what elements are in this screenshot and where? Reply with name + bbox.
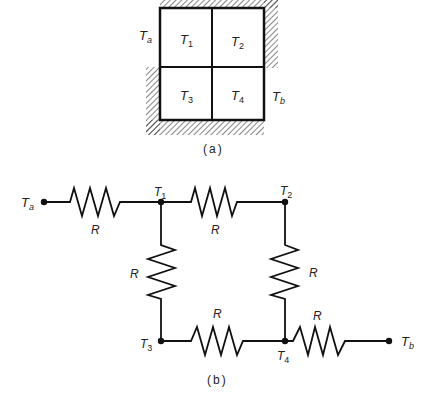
resistor-label-ta-t1: R [91,223,100,237]
thermal-network-figure: T1 T2 T3 T4 Ta Tb (a) Ta T1 T2 T3 T4 Tb [0,0,432,394]
resistor-t1-t2 [161,188,285,216]
figure-a: T1 T2 T3 T4 Ta Tb (a) [139,0,285,156]
resistor-label-t2-t4: R [309,266,318,280]
resistor-label-t1-t2: R [211,223,220,237]
caption-b: (b) [207,373,228,387]
figure-b [44,188,389,355]
resistor-label-t1-t3: R [130,267,139,281]
node-tb [386,338,392,344]
node-t4 [282,338,288,344]
boundary-label-tb: Tb [272,89,285,106]
node-label-ta: Ta [21,195,34,212]
resistor-t3-t4 [161,327,285,355]
hatch-right [264,0,278,68]
node-label-t3: T3 [140,337,152,353]
resistor-t2-t4 [271,202,298,341]
resistor-label-t4-tb: R [313,309,322,323]
node-t3 [158,338,164,344]
node-ta [41,199,47,205]
boundary-label-ta: Ta [139,28,152,45]
node-label-t2: T2 [280,184,292,200]
resistor-t4-tb [285,327,389,355]
resistor-label-t3-t4: R [213,307,222,321]
resistor-t1-t3 [148,202,175,341]
nodes [41,199,392,344]
resistor-ta-t1 [44,188,161,216]
hatch-bottom [146,120,264,135]
caption-a: (a) [203,142,224,156]
node-label-t1: T1 [154,185,166,201]
node-label-t4: T4 [277,349,289,365]
node-label-tb: Tb [401,334,414,351]
